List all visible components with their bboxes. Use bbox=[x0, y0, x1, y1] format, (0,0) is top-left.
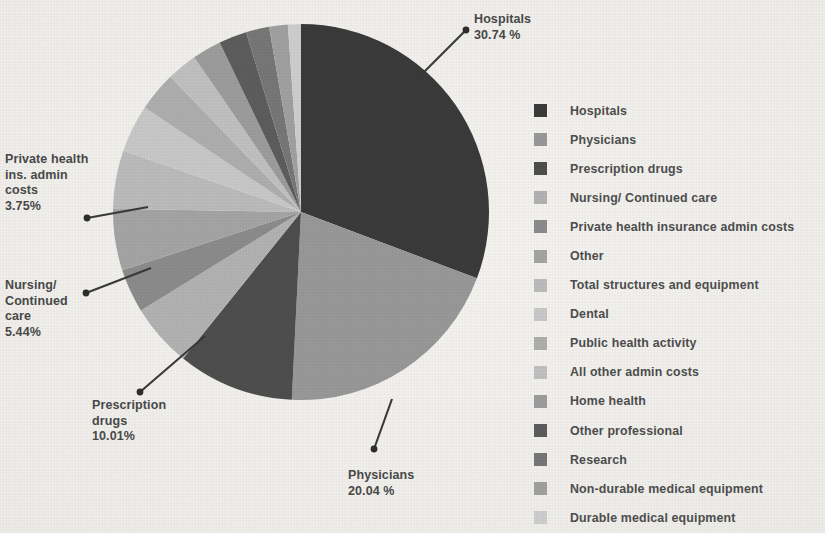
legend-item[interactable]: All other admin costs bbox=[534, 358, 824, 387]
callout-private-admin: Private health ins. admin costs 3.75% bbox=[5, 152, 88, 214]
leader-dot-nursing bbox=[83, 290, 90, 297]
legend-item[interactable]: Physicians bbox=[534, 125, 824, 154]
pie-slice-group bbox=[113, 24, 489, 400]
legend-swatch-icon bbox=[534, 482, 547, 495]
leader-line-hospitals bbox=[414, 30, 466, 82]
legend-swatch-icon bbox=[534, 511, 547, 524]
legend-swatch-icon bbox=[534, 133, 547, 146]
legend-swatch-icon bbox=[534, 308, 547, 321]
legend-item-label: Private health insurance admin costs bbox=[570, 220, 794, 234]
legend-swatch-icon bbox=[534, 337, 547, 350]
leader-dot-prescription-drugs bbox=[137, 389, 144, 396]
legend-item[interactable]: Public health activity bbox=[534, 329, 824, 358]
legend-item[interactable]: Hospitals bbox=[534, 96, 824, 125]
legend-swatch-icon bbox=[534, 104, 547, 117]
legend-item-label: All other admin costs bbox=[570, 365, 699, 379]
leader-line-physicians bbox=[374, 399, 392, 449]
legend-item-label: Other professional bbox=[570, 424, 683, 438]
legend-item-label: Prescription drugs bbox=[570, 162, 683, 176]
legend-item-label: Dental bbox=[570, 307, 609, 321]
legend-swatch-icon bbox=[534, 162, 547, 175]
legend-item[interactable]: Private health insurance admin costs bbox=[534, 212, 824, 241]
legend-swatch-icon bbox=[534, 250, 547, 263]
legend-swatch-icon bbox=[534, 191, 547, 204]
legend-item[interactable]: Prescription drugs bbox=[534, 154, 824, 183]
legend-swatch-icon bbox=[534, 395, 547, 408]
legend-item-label: Non-durable medical equipment bbox=[570, 482, 763, 496]
legend-item[interactable]: Dental bbox=[534, 300, 824, 329]
legend-swatch-icon bbox=[534, 366, 547, 379]
legend-item-label: Nursing/ Continued care bbox=[570, 191, 717, 205]
chart-legend: HospitalsPhysiciansPrescription drugsNur… bbox=[534, 96, 824, 532]
legend-swatch-icon bbox=[534, 220, 547, 233]
leader-dot-private-admin bbox=[84, 215, 91, 222]
legend-item-label: Physicians bbox=[570, 133, 636, 147]
leader-dot-hospitals bbox=[463, 27, 470, 34]
legend-item[interactable]: Total structures and equipment bbox=[534, 271, 824, 300]
callout-hospitals: Hospitals 30.74 % bbox=[474, 12, 531, 43]
legend-item[interactable]: Home health bbox=[534, 387, 824, 416]
legend-swatch-icon bbox=[534, 453, 547, 466]
legend-item-label: Hospitals bbox=[570, 104, 627, 118]
legend-item-label: Durable medical equipment bbox=[570, 511, 736, 525]
legend-item[interactable]: Research bbox=[534, 445, 824, 474]
legend-swatch-icon bbox=[534, 279, 547, 292]
legend-item[interactable]: Durable medical equipment bbox=[534, 503, 824, 532]
legend-item-label: Total structures and equipment bbox=[570, 278, 759, 292]
callout-physicians: Physicians 20.04 % bbox=[348, 468, 414, 499]
legend-item-label: Other bbox=[570, 249, 604, 263]
legend-swatch-icon bbox=[534, 424, 547, 437]
legend-item[interactable]: Non-durable medical equipment bbox=[534, 474, 824, 503]
leader-dot-physicians bbox=[371, 446, 378, 453]
legend-item[interactable]: Other professional bbox=[534, 416, 824, 445]
chart-page: Hospitals 30.74 % Physicians 20.04 % Pre… bbox=[0, 0, 825, 533]
legend-item-label: Research bbox=[570, 453, 627, 467]
callout-prescription-drugs: Prescription drugs 10.01% bbox=[92, 398, 166, 445]
legend-item[interactable]: Other bbox=[534, 241, 824, 270]
callout-nursing: Nursing/ Continued care 5.44% bbox=[5, 278, 68, 340]
legend-item-label: Public health activity bbox=[570, 336, 697, 350]
legend-item[interactable]: Nursing/ Continued care bbox=[534, 183, 824, 212]
legend-item-label: Home health bbox=[570, 394, 646, 408]
